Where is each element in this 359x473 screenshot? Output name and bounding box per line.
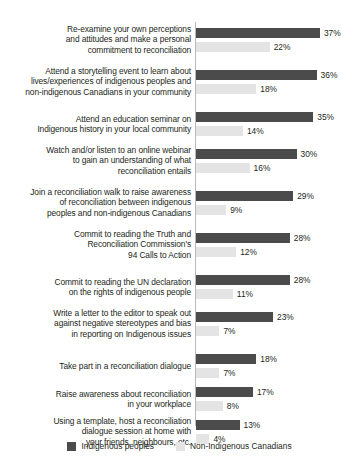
bar-value-label: 30% — [301, 149, 318, 159]
category-label-line: Reconciliation Commission's — [9, 239, 191, 249]
bar-indigenous-peoples[interactable] — [196, 312, 273, 322]
bar-value-label: 16% — [254, 163, 271, 173]
bar-indigenous-peoples[interactable] — [196, 70, 317, 80]
legend-swatch-icon — [176, 442, 185, 451]
category-label: Re-examine your own perceptionsand attit… — [9, 24, 191, 55]
bar-indigenous-peoples[interactable] — [196, 149, 297, 159]
category-label-line: against negative stereotypes and bias — [9, 318, 191, 328]
bar-value-label: 11% — [237, 289, 253, 299]
bar-group: 36%18% — [196, 66, 359, 104]
category-label-line: Raise awareness about reconciliation — [9, 389, 191, 399]
bar-row: Attend an education seminar onIndigenous… — [0, 108, 359, 146]
legend-label: Non-Indigenous Canadians — [190, 441, 292, 451]
category-label-line: of reconciliation between indigenous — [9, 197, 191, 207]
category-label-line: and attitudes and make a personal — [9, 34, 191, 44]
category-label-line: commitment to reconciliation — [9, 45, 191, 55]
bar-indigenous-peoples[interactable] — [196, 387, 253, 397]
bar-group: 23%7% — [196, 308, 359, 346]
category-label: Take part in a reconciliation dialogue — [9, 361, 191, 371]
bar-non-indigenous-canadians[interactable] — [196, 401, 223, 411]
legend-item[interactable]: Indigenous peoples — [67, 441, 154, 451]
bar-value-label: 7% — [223, 368, 235, 378]
category-label-line: Attend an education seminar on — [9, 114, 191, 124]
category-label: Raise awareness about reconciliationin y… — [9, 389, 191, 410]
category-label: Write a letter to the editor to speak ou… — [9, 308, 191, 339]
bar-value-label: 36% — [321, 70, 338, 80]
bar-value-label: 23% — [277, 312, 294, 322]
bar-non-indigenous-canadians[interactable] — [196, 289, 233, 299]
grouped-bar-chart: Re-examine your own perceptionsand attit… — [0, 0, 359, 473]
bar-indigenous-peoples[interactable] — [196, 191, 293, 201]
bar-non-indigenous-canadians[interactable] — [196, 326, 219, 336]
bar-non-indigenous-canadians[interactable] — [196, 42, 270, 52]
category-label-line: on the rights of indigenous people — [9, 287, 191, 297]
bar-value-label: 17% — [257, 387, 274, 397]
category-label-line: Attend a storytelling event to learn abo… — [9, 66, 191, 76]
category-label: Watch and/or listen to an online webinar… — [9, 145, 191, 176]
bar-indigenous-peoples[interactable] — [196, 233, 290, 243]
category-label-line: peoples and non-indigenous Canadians — [9, 208, 191, 218]
bar-non-indigenous-canadians[interactable] — [196, 205, 226, 215]
bar-value-label: 18% — [260, 354, 277, 364]
category-label: Join a reconciliation walk to raise awar… — [9, 187, 191, 218]
category-label-line: to gain an understanding of what — [9, 155, 191, 165]
category-label-line: Commit to reading the UN declaration — [9, 277, 191, 287]
bar-value-label: 9% — [230, 205, 242, 215]
category-label: Attend an education seminar onIndigenous… — [9, 114, 191, 135]
bar-non-indigenous-canadians[interactable] — [196, 126, 243, 136]
bar-group: 28%12% — [196, 229, 359, 267]
category-label-line: in your workplace — [9, 399, 191, 409]
category-label-line: Re-examine your own perceptions — [9, 24, 191, 34]
bar-value-label: 13% — [244, 420, 261, 430]
plot-area: Re-examine your own perceptionsand attit… — [0, 21, 359, 431]
category-label-line: Write a letter to the editor to speak ou… — [9, 308, 191, 318]
bar-indigenous-peoples[interactable] — [196, 275, 290, 285]
category-label-line: reconciliation entails — [9, 166, 191, 176]
bar-value-label: 28% — [294, 275, 311, 285]
category-label-line: Commit to reading the Truth and — [9, 229, 191, 239]
bar-indigenous-peoples[interactable] — [196, 354, 256, 364]
bar-group: 29%9% — [196, 187, 359, 225]
legend-swatch-icon — [67, 442, 76, 451]
category-label-line: lives/experiences of indigenous peoples … — [9, 76, 191, 86]
category-label-line: Watch and/or listen to an online webinar — [9, 145, 191, 155]
category-label: Commit to reading the Truth andReconcili… — [9, 229, 191, 260]
category-label-line: in reporting on Indigenous issues — [9, 329, 191, 339]
bar-group: 37%22% — [196, 24, 359, 62]
category-label: Attend a storytelling event to learn abo… — [9, 66, 191, 97]
bar-indigenous-peoples[interactable] — [196, 28, 320, 38]
bar-row: Re-examine your own perceptionsand attit… — [0, 24, 359, 62]
bar-value-label: 18% — [260, 84, 277, 94]
bar-value-label: 8% — [227, 401, 239, 411]
bar-row: Attend a storytelling event to learn abo… — [0, 66, 359, 104]
bar-group: 35%14% — [196, 108, 359, 146]
category-label: Commit to reading the UN declarationon t… — [9, 277, 191, 298]
bar-row: Join a reconciliation walk to raise awar… — [0, 187, 359, 225]
bar-value-label: 12% — [240, 247, 257, 257]
bar-non-indigenous-canadians[interactable] — [196, 368, 219, 378]
chart-legend: Indigenous peoplesNon-Indigenous Canadia… — [0, 441, 359, 451]
bar-row: Commit to reading the Truth andReconcili… — [0, 229, 359, 267]
category-label-line: Using a template, host a reconciliation — [9, 416, 191, 426]
category-label-line: dialogue session at home with — [9, 426, 191, 436]
bar-group: 30%16% — [196, 145, 359, 183]
bar-indigenous-peoples[interactable] — [196, 112, 313, 122]
category-label-line: Take part in a reconciliation dialogue — [9, 361, 191, 371]
bar-indigenous-peoples[interactable] — [196, 420, 240, 430]
bar-row: Watch and/or listen to an online webinar… — [0, 145, 359, 183]
bar-non-indigenous-canadians[interactable] — [196, 247, 236, 257]
category-label-line: 94 Calls to Action — [9, 250, 191, 260]
bar-value-label: 35% — [317, 112, 334, 122]
bar-non-indigenous-canadians[interactable] — [196, 84, 256, 94]
legend-item[interactable]: Non-Indigenous Canadians — [176, 441, 292, 451]
bar-non-indigenous-canadians[interactable] — [196, 163, 250, 173]
bar-row: Commit to reading the UN declarationon t… — [0, 271, 359, 309]
category-label-line: non-indigenous Canadians in your communi… — [9, 87, 191, 97]
category-label-line: Join a reconciliation walk to raise awar… — [9, 187, 191, 197]
bar-value-label: 14% — [247, 126, 264, 136]
legend-label: Indigenous peoples — [81, 441, 154, 451]
bar-value-label: 37% — [324, 28, 341, 38]
bar-value-label: 7% — [223, 326, 235, 336]
category-label-line: Indigenous history in your local communi… — [9, 124, 191, 134]
bar-value-label: 28% — [294, 233, 311, 243]
